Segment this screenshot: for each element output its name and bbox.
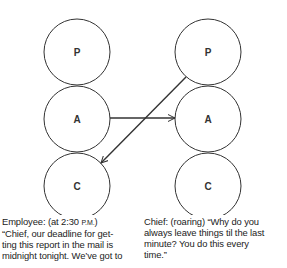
left-parent-label: P: [74, 47, 81, 58]
left-column-ego-states: P A C: [44, 19, 110, 215]
employee-line-1: “Chief, our deadline for get-: [2, 228, 142, 239]
right-column-ego-states: P A C: [175, 19, 241, 215]
chief-caption: Chief: (roaring) “Why do you always leav…: [144, 216, 287, 260]
time-suffix: P.M.: [81, 219, 94, 226]
left-child-label: C: [73, 181, 80, 192]
employee-caption: Employee: (at 2:30 P.M.) “Chief, our dea…: [2, 216, 142, 261]
paren-close: ): [95, 216, 98, 227]
chief-line-3: minute? You do this every: [144, 238, 287, 249]
left-adult-label: A: [73, 114, 80, 125]
chief-line-1: Chief: (roaring) “Why do you: [144, 216, 287, 227]
right-parent-label: P: [205, 47, 212, 58]
parent-to-child-arrow: [101, 77, 186, 163]
chief-line-2: always leave things til the last: [144, 227, 287, 238]
employee-speaker-line: Employee: (at 2:30 P.M.): [2, 216, 142, 228]
right-child-label: C: [204, 181, 211, 192]
chief-line-4: time.”: [144, 249, 287, 260]
employee-line-3: midnight tonight. We’ve got to: [2, 250, 142, 261]
pac-transaction-diagram: P A C P A C: [0, 0, 287, 215]
employee-line-2: ting this report in the mail is: [2, 239, 142, 250]
employee-speaker: Employee: (at 2:30: [2, 216, 81, 227]
right-adult-label: A: [204, 114, 211, 125]
